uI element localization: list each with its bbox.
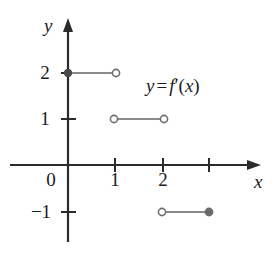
derivative-step-function-figure: y x 0 1 2 2 1 −1 y=f′(x) (0, 0, 277, 258)
curve-equation-label: y=f′(x) (146, 76, 200, 95)
closed-point-3-minus1 (205, 208, 214, 217)
origin-label: 0 (40, 170, 62, 189)
curve-label-close-paren: ) (193, 75, 199, 96)
x-tick-label-1: 1 (104, 170, 126, 189)
y-axis-label: y (44, 16, 52, 35)
x-tick-label-2: 2 (152, 170, 174, 189)
curve-label-equals: = (154, 75, 169, 96)
x-axis-label: x (254, 172, 262, 191)
y-tick-label-1: 1 (34, 109, 56, 128)
x-axis-arrowhead (247, 160, 261, 170)
y-tick-label-minus-1: −1 (26, 202, 56, 221)
y-axis-arrowhead (63, 18, 73, 32)
closed-point-0-2 (64, 69, 72, 77)
y-tick-label-2: 2 (34, 63, 56, 82)
open-point-1-2 (112, 69, 119, 76)
open-point-2-1 (160, 115, 167, 122)
open-point-2-minus1 (158, 208, 165, 215)
open-point-1-1 (110, 115, 117, 122)
